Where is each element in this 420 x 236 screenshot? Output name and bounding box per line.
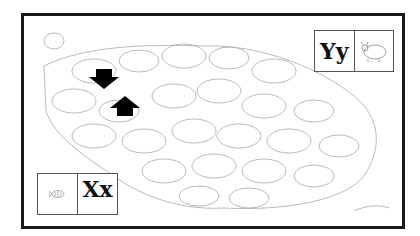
letter-cell: Xx [77, 174, 117, 214]
yak-icon [354, 31, 394, 71]
illustration-frame: Yy Xx [21, 13, 405, 229]
arrow-up-icon [110, 96, 140, 116]
xray-fish-icon [38, 174, 77, 214]
letter-label: Yy [320, 40, 349, 62]
letter-box-xx: Xx [37, 173, 118, 215]
letter-box-yy: Yy [314, 30, 394, 72]
arrow-down-icon [89, 69, 119, 89]
letter-label: Xx [82, 178, 112, 200]
letter-cell: Yy [315, 31, 354, 71]
